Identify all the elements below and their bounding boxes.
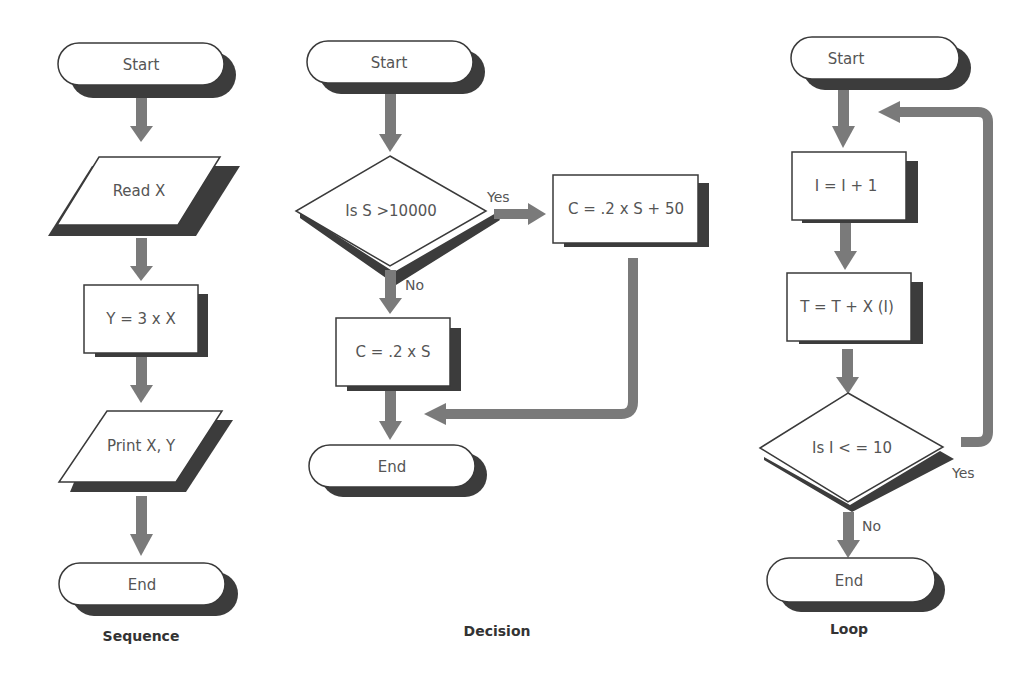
decision-start-node: Start bbox=[307, 41, 485, 94]
arrow-right-icon bbox=[494, 203, 546, 225]
sequence-compute-label: Y = 3 x X bbox=[105, 310, 176, 328]
loop-start-label: Start bbox=[828, 50, 865, 68]
arrow-down-icon bbox=[130, 238, 153, 281]
sequence-process-node: Y = 3 x X bbox=[84, 285, 208, 357]
decision-flowchart: Start Is S >10000 Yes C = .2 x S + 50 bbox=[296, 41, 709, 639]
decision-yes-process-label: C = .2 x S + 50 bbox=[568, 200, 684, 218]
arrow-down-icon bbox=[379, 391, 402, 440]
arrow-down-icon bbox=[837, 512, 860, 558]
loop-caption: Loop bbox=[830, 621, 868, 637]
decision-no-process-node: C = .2 x S bbox=[336, 318, 461, 391]
loop-increment-node: I = I + 1 bbox=[792, 152, 918, 223]
arrow-down-icon bbox=[834, 223, 857, 270]
loop-flowchart: Start I = I + 1 T = T + X (I) bbox=[760, 37, 988, 637]
loop-end-node: End bbox=[767, 558, 945, 612]
decision-end-label: End bbox=[378, 458, 407, 476]
arrow-down-icon bbox=[379, 94, 402, 152]
loop-accumulate-node: T = T + X (I) bbox=[787, 273, 923, 344]
decision-caption: Decision bbox=[464, 623, 531, 639]
loop-condition-label: Is I < = 10 bbox=[812, 439, 892, 457]
sequence-output-node: Print X, Y bbox=[59, 411, 233, 492]
arrow-down-icon bbox=[836, 349, 859, 394]
sequence-print-label: Print X, Y bbox=[107, 437, 176, 455]
loop-end-label: End bbox=[835, 572, 864, 590]
loop-yes-label: Yes bbox=[951, 465, 975, 481]
decision-yes-label: Yes bbox=[486, 189, 510, 205]
loop-no-label: No bbox=[862, 518, 881, 534]
loop-accumulate-label: T = T + X (I) bbox=[799, 298, 894, 316]
flowchart-diagram: Start Read X Y = 3 x X bbox=[0, 0, 1033, 678]
decision-condition-label: Is S >10000 bbox=[345, 202, 437, 220]
arrow-down-icon bbox=[130, 98, 153, 142]
loop-increment-label: I = I + 1 bbox=[815, 177, 878, 195]
sequence-start-label: Start bbox=[123, 56, 160, 74]
decision-no-label: No bbox=[405, 277, 424, 293]
decision-condition-node: Is S >10000 bbox=[296, 156, 500, 285]
decision-yes-process-node: C = .2 x S + 50 bbox=[553, 175, 709, 247]
sequence-caption: Sequence bbox=[103, 628, 180, 644]
arrow-down-icon bbox=[832, 90, 855, 148]
decision-start-label: Start bbox=[371, 54, 408, 72]
loop-condition-node: Is I < = 10 bbox=[760, 393, 954, 512]
sequence-input-node: Read X bbox=[48, 157, 240, 236]
arrow-down-icon bbox=[130, 357, 153, 403]
decision-no-process-label: C = .2 x S bbox=[356, 343, 431, 361]
sequence-flowchart: Start Read X Y = 3 x X bbox=[48, 43, 240, 644]
arrow-down-icon bbox=[130, 496, 153, 556]
sequence-end-node: End bbox=[59, 563, 238, 616]
sequence-read-label: Read X bbox=[113, 182, 166, 200]
sequence-end-label: End bbox=[128, 576, 157, 594]
decision-end-node: End bbox=[309, 445, 487, 497]
loop-start-node: Start bbox=[791, 37, 971, 90]
sequence-start-node: Start bbox=[58, 43, 236, 98]
